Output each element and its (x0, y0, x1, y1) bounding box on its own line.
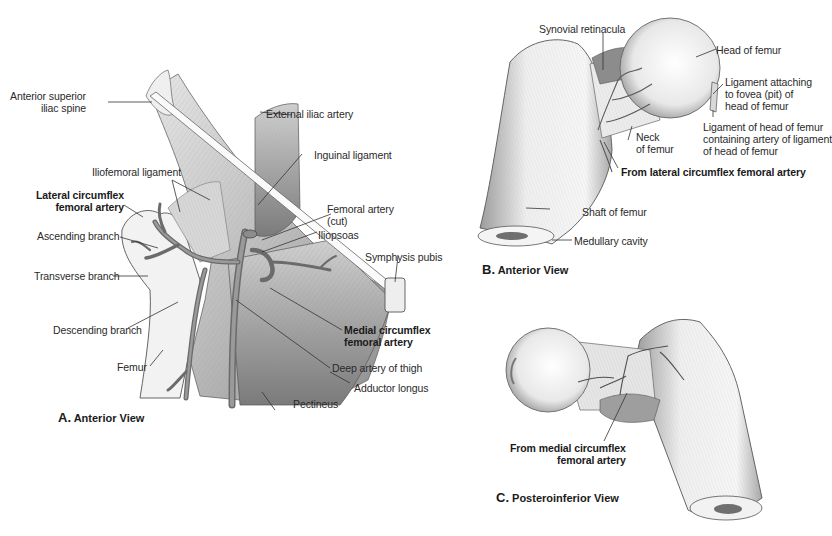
panel-a-drawing (122, 70, 405, 405)
label-deep-artery-of-thigh: Deep artery of thigh (332, 362, 422, 374)
label-neck-of-femur: Neck of femur (636, 131, 674, 155)
label-iliopsoas: Iliopsoas (318, 229, 359, 241)
label-ligament-attaching-fovea: Ligament attaching to fovea (pit) of hea… (725, 76, 812, 112)
label-lateral-circumflex-femoral-artery: Lateral circumflex femoral artery (36, 189, 124, 213)
label-ligament-of-head-of-femur: Ligament of head of femur containing art… (703, 121, 832, 157)
label-medial-circumflex-femoral-artery: Medial circumflex femoral artery (344, 324, 430, 348)
label-inguinal-ligament: Inguinal ligament (314, 149, 392, 161)
caption-panel-c: C. Posteroinferior View (496, 490, 619, 505)
label-pectineus: Pectineus (293, 398, 338, 410)
label-shaft-of-femur: Shaft of femur (582, 206, 647, 218)
label-adductor-longus: Adductor longus (354, 382, 428, 394)
label-transverse-branch: Transverse branch (34, 270, 119, 282)
label-descending-branch: Descending branch (53, 324, 142, 336)
label-femur: Femur (117, 361, 147, 373)
label-from-lateral-circumflex: From lateral circumflex femoral artery (621, 166, 806, 178)
label-anterior-superior-iliac-spine: Anterior superior iliac spine (10, 90, 86, 114)
label-iliofemoral-ligament: Iliofemoral ligament (92, 166, 181, 178)
label-ascending-branch: Ascending branch (37, 230, 119, 242)
label-external-iliac-artery: External iliac artery (266, 108, 353, 120)
label-head-of-femur: Head of femur (716, 44, 781, 56)
label-from-medial-circumflex: From medial circumflex femoral artery (510, 442, 626, 466)
caption-panel-a: A. Anterior View (58, 410, 144, 425)
label-symphysis-pubis: Symphysis pubis (365, 251, 442, 263)
caption-panel-b: B. Anterior View (482, 262, 568, 277)
label-femoral-artery-cut: Femoral artery (cut) (327, 203, 394, 227)
label-medullary-cavity: Medullary cavity (574, 235, 648, 247)
label-synovial-retinacula: Synovial retinacula (539, 23, 625, 35)
